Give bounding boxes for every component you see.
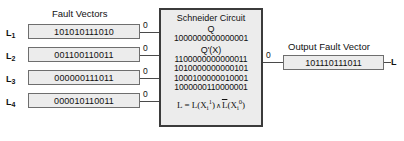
output-fault-vector-box: 101110111011 xyxy=(283,55,384,70)
circuit-qx-matrix: 1100000000000011 1010000000000101 100010… xyxy=(161,55,261,93)
diagram-canvas: Fault Vectors Output Fault Vector L1 101… xyxy=(0,0,404,141)
input-row-label-2-text: L xyxy=(6,51,12,61)
schneider-circuit-box: Schneider Circuit Q 1000000000000001 Q'(… xyxy=(159,8,263,127)
input-row-label-3: L3 xyxy=(6,74,15,84)
input-row-label-4-index: 4 xyxy=(12,101,16,108)
connector-label-3: 0 xyxy=(143,66,148,76)
fault-vectors-heading: Fault Vectors xyxy=(52,8,107,19)
output-fault-vector-heading: Output Fault Vector xyxy=(288,41,370,52)
input-row-label-3-index: 3 xyxy=(12,78,16,85)
output-tail-line xyxy=(384,62,391,63)
formula-and: ∧ xyxy=(215,102,222,110)
circuit-title: Schneider Circuit xyxy=(161,13,261,23)
fault-vector-box-4: 000010110011 xyxy=(28,93,140,108)
formula-term1-var: X xyxy=(200,100,207,110)
output-connector-line xyxy=(263,62,283,63)
connector-label-4: 0 xyxy=(143,89,148,99)
fault-vector-box-1: 101010111010 xyxy=(28,24,140,39)
output-label: L xyxy=(391,57,397,67)
fault-vector-box-2: 001100110011 xyxy=(28,47,140,62)
formula-term2-var: X xyxy=(230,100,237,110)
formula-lhs: L xyxy=(177,100,182,110)
connector-line-4 xyxy=(140,101,160,102)
connector-line-1 xyxy=(140,32,160,33)
circuit-q-value: 1000000000000001 xyxy=(161,34,261,44)
input-row-label-2-index: 2 xyxy=(12,55,16,62)
formula-term2-close: ) xyxy=(242,100,245,110)
circuit-formula: L = L(Xi1)∧L(Xi0) xyxy=(161,100,261,110)
connector-label-2: 0 xyxy=(143,43,148,53)
formula-term1-sub: i xyxy=(207,104,209,111)
input-row-label-4-text: L xyxy=(6,97,12,107)
input-row-label-4: L4 xyxy=(6,97,15,107)
connector-line-2 xyxy=(140,55,160,56)
input-row-label-2: L2 xyxy=(6,51,15,61)
input-row-label-1: L1 xyxy=(6,28,15,38)
input-row-label-1-index: 1 xyxy=(12,32,16,39)
formula-term2-sup: 0 xyxy=(239,98,242,105)
formula-term1-sup: 1 xyxy=(209,98,212,105)
input-row-label-1-text: L xyxy=(6,28,12,38)
input-row-label-3-text: L xyxy=(6,74,12,84)
connector-label-1: 0 xyxy=(143,20,148,30)
circuit-qx-row-4: 1000000110000001 xyxy=(161,83,261,93)
output-connector-label: 0 xyxy=(266,50,271,60)
connector-line-3 xyxy=(140,78,160,79)
formula-equals: = xyxy=(184,100,189,110)
formula-term2-sub: i xyxy=(237,104,239,111)
fault-vector-box-3: 000000111011 xyxy=(28,70,140,85)
